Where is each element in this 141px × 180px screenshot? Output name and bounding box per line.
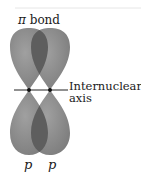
nucleus-left [27, 88, 31, 92]
axis-label-line2: axis [69, 92, 141, 104]
internuclear-axis-label: Internuclear axis [69, 80, 141, 104]
orbital-label-left: p [24, 158, 32, 171]
pi-symbol: π [18, 13, 26, 27]
bond-text: bond [26, 13, 60, 27]
orbital-label-right: p [48, 158, 56, 171]
pi-bond-title: π bond [18, 14, 60, 26]
nucleus-right [48, 88, 52, 92]
